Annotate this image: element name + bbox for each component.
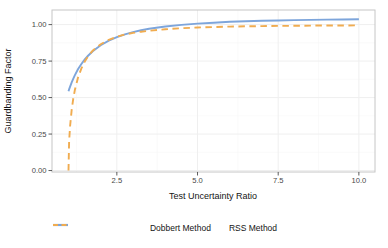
legend-swatch-rss-method <box>52 220 69 230</box>
y-axis-title: Guardbanding Factor <box>3 48 13 133</box>
legend-item-rss-method: RSS Method <box>229 223 277 233</box>
x-tick-label: 2.5 <box>112 176 123 185</box>
guardbanding-chart: 2.55.07.510.00.000.250.500.751.00 Test U… <box>0 0 388 248</box>
x-axis-title: Test Uncertainty Ratio <box>169 191 257 201</box>
y-tick-label: 0.25 <box>32 130 47 139</box>
series-line-dobbert-method <box>69 19 359 91</box>
x-tick-label: 10.0 <box>351 176 366 185</box>
x-tick-label: 7.5 <box>273 176 284 185</box>
series-lines <box>69 19 359 170</box>
legend-item-dobbert-method: Dobbert Method <box>150 223 211 233</box>
axis-ticks: 2.55.07.510.00.000.250.500.751.00 <box>32 20 367 185</box>
x-tick-label: 5.0 <box>192 176 203 185</box>
y-tick-label: 1.00 <box>32 20 47 29</box>
chart-canvas: 2.55.07.510.00.000.250.500.751.00 Test U… <box>0 0 388 248</box>
y-tick-label: 0.50 <box>32 93 47 102</box>
legend: Dobbert MethodRSS Method <box>52 220 375 236</box>
y-tick-label: 0.00 <box>32 166 47 175</box>
gridlines <box>52 10 375 172</box>
y-tick-label: 0.75 <box>32 57 47 66</box>
plot-panel-border <box>52 10 375 172</box>
legend-label-dobbert-method: Dobbert Method <box>150 223 211 233</box>
legend-label-rss-method: RSS Method <box>229 223 277 233</box>
